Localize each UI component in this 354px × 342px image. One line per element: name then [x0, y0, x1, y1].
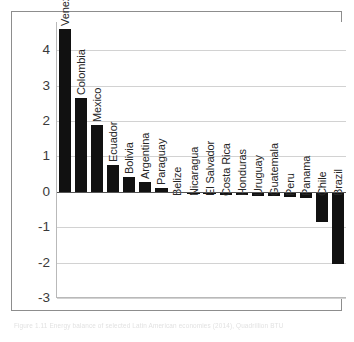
- plot-area: VenezuelaColombiaMexicoEcuadorBoliviaArg…: [56, 22, 346, 298]
- bar-slot: Honduras: [234, 22, 250, 297]
- bar-label-el-salvador: El Salvador: [204, 141, 215, 196]
- bar-slot: Venezuela: [57, 22, 73, 297]
- bar-slot: Brazil: [330, 22, 346, 297]
- bar-label-costa-rica: Costa Rica: [220, 143, 231, 196]
- bar-mexico: [91, 125, 103, 192]
- y-tick-neg3: -3: [24, 291, 50, 305]
- bar-slot: Paraguay: [153, 22, 169, 297]
- bar-label-venezuela: Venezuela: [60, 0, 71, 26]
- bar-series: VenezuelaColombiaMexicoEcuadorBoliviaArg…: [57, 22, 346, 297]
- bar-label-guatemala: Guatemala: [268, 143, 279, 196]
- bar-slot: Chile: [314, 22, 330, 297]
- y-tick-0: 0: [24, 185, 50, 199]
- bar-colombia: [75, 98, 87, 191]
- bar-slot: Costa Rica: [218, 22, 234, 297]
- bar-slot: Belize: [169, 22, 185, 297]
- bar-label-ecuador: Ecuador: [108, 122, 119, 162]
- bar-slot: El Salvador: [202, 22, 218, 297]
- bar-label-bolivia: Bolivia: [124, 142, 135, 174]
- bar-brazil: [332, 192, 344, 265]
- bar-slot: Peru: [282, 22, 298, 297]
- bar-label-uruguay: Uruguay: [252, 155, 263, 196]
- y-tick-neg2: -2: [24, 256, 50, 270]
- bar-chile: [316, 192, 328, 222]
- y-tick-4: 4: [24, 44, 50, 58]
- bar-venezuela: [59, 29, 71, 192]
- bar-label-nicaragua: Nicaragua: [188, 147, 199, 196]
- bar-slot: Argentina: [137, 22, 153, 297]
- bar-label-mexico: Mexico: [92, 87, 103, 121]
- y-tick-2: 2: [24, 114, 50, 128]
- bar-slot: Panama: [298, 22, 314, 297]
- bar-argentina: [139, 182, 151, 192]
- y-axis-tick-labels: 43210-1-2-3: [24, 22, 50, 298]
- bar-slot: Nicaragua: [186, 22, 202, 297]
- bar-slot: Colombia: [73, 22, 89, 297]
- bar-slot: Guatemala: [266, 22, 282, 297]
- bar-label-honduras: Honduras: [236, 149, 247, 196]
- figure-caption: Figure 1.11 Energy balance of selected L…: [14, 322, 344, 329]
- figure-container: Quadrillion BTU 43210-1-2-3 VenezuelaCol…: [0, 0, 354, 342]
- bar-ecuador: [107, 165, 119, 192]
- bar-slot: Uruguay: [250, 22, 266, 297]
- gridline: [57, 298, 346, 299]
- bar-slot: Ecuador: [105, 22, 121, 297]
- y-tick-3: 3: [24, 79, 50, 93]
- y-tick-neg1: -1: [24, 220, 50, 234]
- bar-label-panama: Panama: [300, 155, 311, 195]
- bar-label-argentina: Argentina: [140, 133, 151, 179]
- y-tick-1: 1: [24, 150, 50, 164]
- zero-line: [57, 192, 346, 193]
- bar-label-colombia: Colombia: [76, 50, 87, 96]
- bar-bolivia: [123, 177, 135, 192]
- bar-slot: Bolivia: [121, 22, 137, 297]
- bar-label-paraguay: Paraguay: [156, 139, 167, 185]
- bar-slot: Mexico: [89, 22, 105, 297]
